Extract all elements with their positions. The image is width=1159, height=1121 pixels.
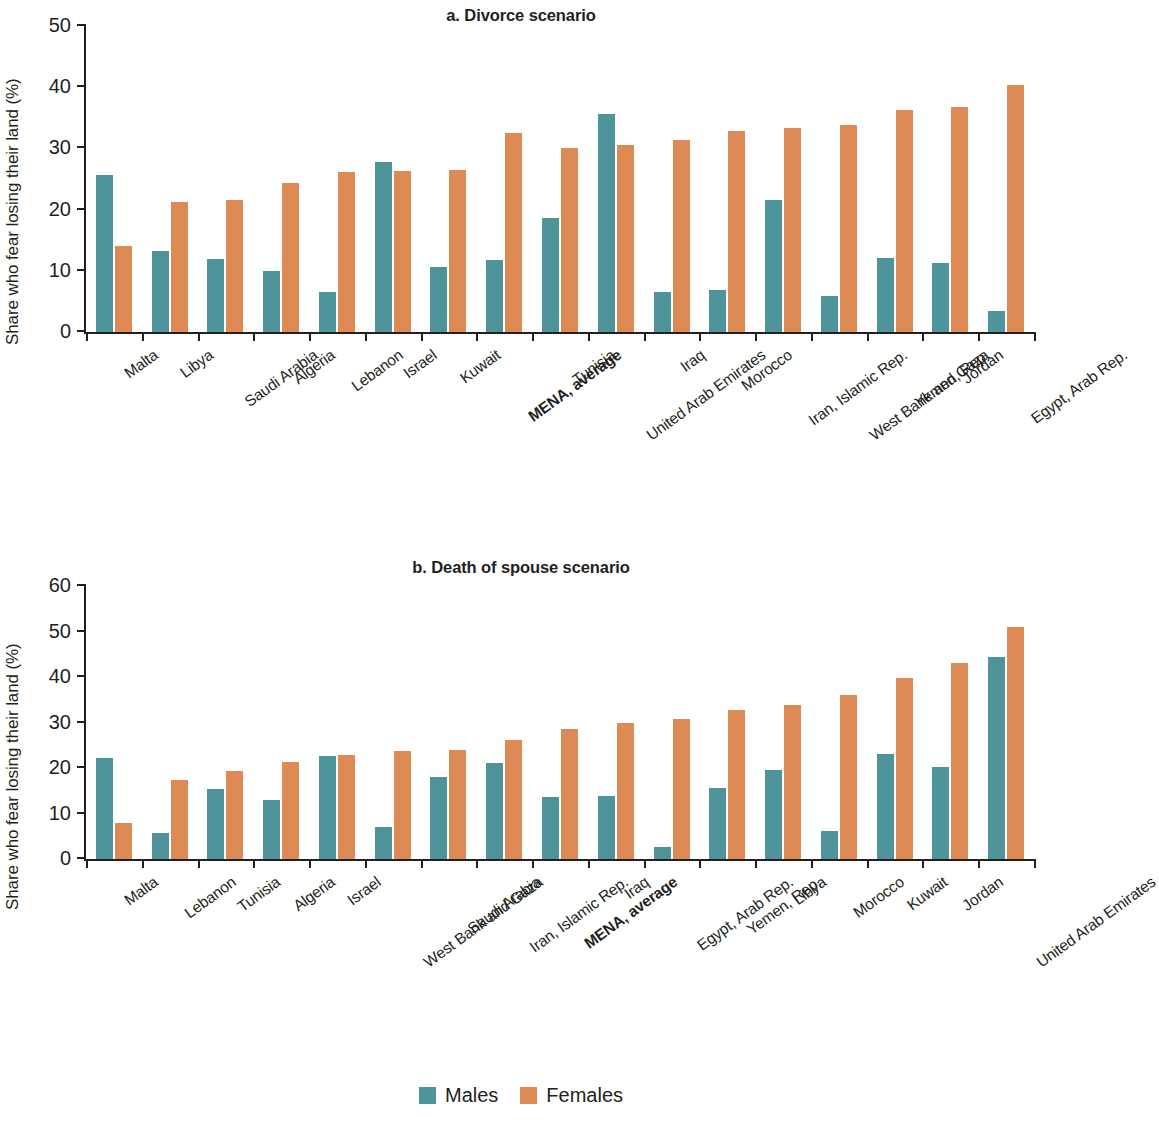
- x-axis-label-cell: Iran, Islamic Rep.: [755, 332, 811, 502]
- bar-males: [207, 789, 224, 859]
- bar-females: [896, 110, 913, 332]
- y-axis-tick-label: 30: [49, 136, 71, 159]
- bar-group: [365, 586, 421, 859]
- x-axis-label-cell: Lebanon: [309, 332, 365, 502]
- bar-group: [309, 26, 365, 332]
- bar-group: [198, 586, 254, 859]
- bar-females: [896, 678, 913, 859]
- bar-females: [1007, 627, 1024, 859]
- bar-males: [375, 827, 392, 859]
- bar-group: [588, 586, 644, 859]
- bar-males: [709, 290, 726, 332]
- x-axis-label-cell: Kuwait: [421, 332, 477, 502]
- bar-group: [198, 26, 254, 332]
- bar-females: [449, 170, 466, 332]
- bar-females: [171, 780, 188, 859]
- bar-group: [532, 586, 588, 859]
- bar-females: [282, 183, 299, 332]
- y-axis-tick: 60: [77, 584, 86, 586]
- bar-group: [309, 586, 365, 859]
- bar-males: [152, 251, 169, 332]
- bar-females: [449, 750, 466, 859]
- bar-females: [728, 710, 745, 859]
- bar-group: [253, 26, 309, 332]
- bar-group: [699, 586, 755, 859]
- x-axis-label-cell: West Bank and Gaza: [365, 859, 421, 1029]
- bar-males: [486, 260, 503, 332]
- bar-group: [532, 26, 588, 332]
- y-axis-tick: 20: [77, 208, 86, 210]
- bar-males: [765, 200, 782, 332]
- bar-males: [598, 114, 615, 332]
- y-axis-tick-label: 0: [60, 320, 71, 343]
- bar-group: [867, 586, 923, 859]
- y-axis-tick-label: 20: [49, 756, 71, 779]
- y-axis-tick-label: 20: [49, 198, 71, 221]
- y-axis-tick: 20: [77, 766, 86, 768]
- bar-males: [654, 847, 671, 859]
- bar-females: [338, 172, 355, 332]
- x-axis-label-cell: Egypt, Arab Rep.: [644, 859, 700, 1029]
- bar-group: [811, 586, 867, 859]
- y-axis-tick: 0: [77, 330, 86, 332]
- bar-males: [96, 758, 113, 859]
- bar-females: [673, 140, 690, 332]
- x-axis-label-cell: Iraq: [588, 859, 644, 1029]
- bar-females: [951, 663, 968, 859]
- bar-group: [365, 26, 421, 332]
- bar-females: [1007, 85, 1024, 332]
- x-axis-label-cell: Morocco: [699, 332, 755, 502]
- x-axis-label-cell: Libya: [142, 332, 198, 502]
- x-axis-label-cell: Egypt, Arab Rep.: [978, 332, 1034, 502]
- x-axis-label-cell: Jordan: [922, 859, 978, 1029]
- x-axis-label-cell: Morocco: [811, 859, 867, 1029]
- bar-males: [821, 831, 838, 859]
- bar-females: [505, 133, 522, 333]
- bar-males: [430, 267, 447, 332]
- legend-swatch-females: [520, 1087, 537, 1104]
- x-axis-label-cell: Kuwait: [867, 859, 923, 1029]
- bar-females: [505, 740, 522, 859]
- x-axis-label-cell: Yemen, Rep.: [867, 332, 923, 502]
- y-axis-tick: 50: [77, 630, 86, 632]
- bar-males: [821, 296, 838, 332]
- x-axis-label-cell: Jordan: [922, 332, 978, 502]
- x-axis-label-cell: United Arab Emirates: [588, 332, 644, 502]
- bar-males: [375, 162, 392, 332]
- bar-females: [673, 719, 690, 859]
- x-axis-label-cell: Israel: [365, 332, 421, 502]
- y-axis-tick: 30: [77, 721, 86, 723]
- y-axis-tick-label: 10: [49, 802, 71, 825]
- y-axis-tick: 40: [77, 85, 86, 87]
- panel-b-bar-groups: [86, 586, 1034, 859]
- bar-males: [542, 218, 559, 332]
- bar-females: [784, 128, 801, 332]
- bar-group: [421, 26, 477, 332]
- bar-males: [263, 271, 280, 332]
- bar-males: [542, 797, 559, 859]
- bar-females: [617, 145, 634, 332]
- x-axis-label-cell: MENA, average: [476, 332, 532, 502]
- bar-females: [226, 200, 243, 332]
- bar-males: [319, 756, 336, 859]
- bar-females: [561, 729, 578, 859]
- x-axis-label: Egypt, Arab Rep.: [1028, 346, 1131, 428]
- bar-females: [617, 723, 634, 860]
- bar-females: [840, 125, 857, 332]
- x-axis-label-cell: Malta: [86, 859, 142, 1029]
- bar-group: [922, 26, 978, 332]
- bar-group: [142, 26, 198, 332]
- bar-group: [253, 586, 309, 859]
- bar-group: [142, 586, 198, 859]
- bar-females: [561, 148, 578, 332]
- x-axis-label-cell: Israel: [309, 859, 365, 1029]
- bar-females: [394, 751, 411, 859]
- bar-males: [765, 770, 782, 859]
- bar-males: [486, 763, 503, 859]
- panel-a-plot-area: 01020304050 MaltaLibyaSaudi ArabiaAlgeri…: [84, 26, 1034, 334]
- x-axis-label-cell: Iraq: [644, 332, 700, 502]
- bar-males: [96, 175, 113, 332]
- x-axis-label-cell: Saudi Arabia: [421, 859, 477, 1029]
- bar-males: [932, 263, 949, 332]
- y-axis-tick: 10: [77, 269, 86, 271]
